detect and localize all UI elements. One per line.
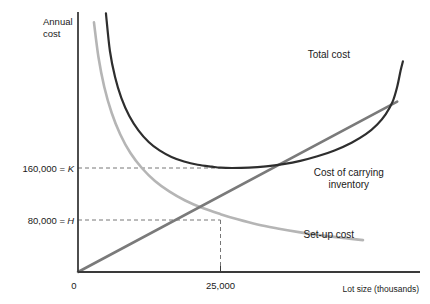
guide-lines [78,168,221,272]
total-cost-curve [106,13,403,168]
y-tick-h: 80,000 = H [28,215,74,226]
x-tick-label-25000: 25,000 [206,280,235,291]
series-group [78,13,403,272]
carrying-cost-label-line2: inventory [328,179,369,190]
setup-cost-label: Set-up cost [304,229,355,240]
y-tick-label-k: 160,000 = [22,163,65,174]
y-tick-symbol-k: K [68,163,75,174]
carrying-cost-label: Cost of carrying [314,167,384,178]
y-tick-label-h: 80,000 = [28,215,66,226]
axes-group [78,12,420,272]
x-axis-title: Lot size (thousands) [342,284,419,294]
x-tick-label-origin: 0 [71,280,76,291]
y-tick-symbol-h: H [67,215,74,226]
total-cost-label: Total cost [308,49,350,60]
y-axis-title-line1: Annual [43,16,73,27]
chart-container: Annual cost Lot size (thousands) 0 25,00… [0,0,430,304]
y-tick-k: 160,000 = K [22,163,74,174]
eoq-chart: Annual cost Lot size (thousands) 0 25,00… [0,0,430,304]
y-axis-title-line2: cost [43,28,61,39]
